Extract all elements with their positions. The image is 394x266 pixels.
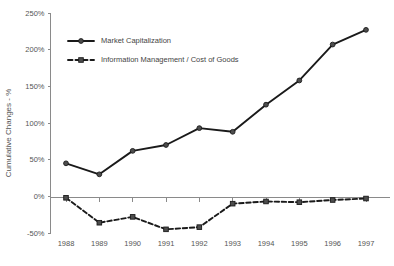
x-tick-label: 1995 [291, 239, 308, 248]
data-point-marker [364, 196, 369, 201]
chart-screenshot: -50%0%50%100%150%200%250% Cumulative Cha… [0, 0, 394, 266]
y-tick-label: 50% [29, 155, 44, 164]
x-tick-label: 1994 [258, 239, 275, 248]
legend-marker-sample [79, 58, 84, 63]
data-point-marker [164, 227, 169, 232]
data-point-marker [64, 196, 69, 201]
data-point-marker [264, 199, 269, 204]
x-tick-label: 1990 [124, 239, 141, 248]
data-point-marker [297, 200, 302, 205]
legend-marker-sample [79, 39, 84, 44]
data-point-marker [297, 78, 302, 83]
y-tick-label: 0% [34, 192, 45, 201]
y-tick-label: -50% [27, 229, 45, 238]
data-point-marker [97, 220, 102, 225]
x-tick-label: 1989 [91, 239, 108, 248]
y-tick-label: 150% [25, 82, 45, 91]
x-tick-label: 1993 [224, 239, 241, 248]
x-tick-label: 1988 [58, 239, 75, 248]
data-point-marker [130, 215, 135, 220]
y-tick-label: 100% [25, 119, 45, 128]
y-axis-title: Cumulative Changes - % [4, 89, 13, 177]
y-tick-label: 200% [25, 45, 45, 54]
data-point-marker [330, 42, 335, 47]
legend-label: Market Capitalization [101, 36, 171, 45]
data-point-marker [330, 198, 335, 203]
data-point-marker [130, 148, 135, 153]
data-point-marker [164, 143, 169, 148]
x-tick-label: 1997 [358, 239, 375, 248]
data-point-marker [230, 129, 235, 134]
x-tick-label: 1992 [191, 239, 208, 248]
data-point-marker [264, 102, 269, 107]
data-point-marker [64, 161, 69, 166]
y-tick-label: 250% [25, 9, 45, 18]
x-tick-label: 1991 [158, 239, 175, 248]
data-point-marker [230, 201, 235, 206]
data-point-marker [97, 172, 102, 177]
x-tick-label: 1996 [324, 239, 341, 248]
data-point-marker [364, 27, 369, 32]
line-chart: -50%0%50%100%150%200%250% Cumulative Cha… [0, 0, 394, 266]
data-point-marker [197, 126, 202, 131]
data-point-marker [197, 225, 202, 230]
legend-label: Information Management / Cost of Goods [101, 55, 239, 64]
